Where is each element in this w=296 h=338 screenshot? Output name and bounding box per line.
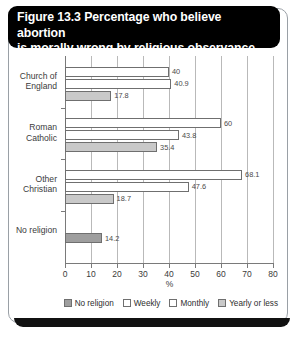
x-axis-tick-label: 10	[78, 269, 104, 279]
x-axis-tick	[195, 264, 196, 268]
bar-value-label: 17.8	[114, 91, 128, 101]
x-axis-tick-label: 0	[52, 269, 78, 279]
legend-swatch	[123, 299, 131, 307]
bar-value-label: 40.9	[174, 79, 188, 89]
bar-value-label: 40	[172, 67, 180, 77]
gridline	[247, 56, 248, 263]
bar	[65, 142, 157, 152]
x-axis-tick-label: 30	[130, 269, 156, 279]
gridline	[221, 56, 222, 263]
bar	[65, 67, 169, 77]
figure-title-bar: Figure 13.3 Percentage who believe abort…	[8, 6, 280, 48]
bar-value-label: 43.8	[182, 131, 196, 141]
bar-value-label: 14.2	[105, 234, 119, 244]
legend-swatch	[64, 299, 72, 307]
y-axis-tick	[61, 159, 66, 160]
bar-value-label: 47.6	[192, 182, 206, 192]
x-axis-tick-label: 40	[156, 269, 182, 279]
bar	[65, 79, 171, 89]
x-axis-tick	[247, 264, 248, 268]
x-axis-tick	[117, 264, 118, 268]
legend-label: No religion	[75, 299, 114, 308]
category-label: Roman Catholic	[0, 122, 61, 143]
y-axis-tick	[61, 211, 66, 212]
gridline	[195, 56, 196, 263]
legend-item: Weekly	[123, 299, 161, 308]
bar	[65, 194, 114, 204]
bar-value-label: 35.4	[160, 143, 174, 153]
x-axis-tick	[91, 264, 92, 268]
category-label: Church of England	[0, 71, 61, 92]
bar	[65, 233, 102, 243]
legend-item: Yearly or less	[218, 299, 278, 308]
x-axis-tick-label: 20	[104, 269, 130, 279]
legend-item: Monthly	[169, 299, 209, 308]
bar-value-label: 60	[224, 119, 232, 129]
x-axis-tick	[143, 264, 144, 268]
bar	[65, 130, 179, 140]
x-axis-tick	[169, 264, 170, 268]
figure-title-line-1: Figure 13.3 Percentage who believe abort…	[17, 10, 271, 41]
legend-swatch	[218, 299, 226, 307]
bar	[65, 182, 189, 192]
chart-legend: No religionWeeklyMonthlyYearly or less	[8, 295, 288, 311]
bar	[65, 118, 221, 128]
x-axis-tick-label: 80	[260, 269, 286, 279]
x-axis-tick-label: 50	[182, 269, 208, 279]
x-axis-tick	[65, 264, 66, 268]
y-axis-tick	[61, 108, 66, 109]
x-axis-tick	[273, 264, 274, 268]
bar-value-label: 68.1	[245, 170, 259, 180]
gridline	[273, 56, 274, 263]
category-label: No religion	[0, 225, 61, 236]
legend-label: Yearly or less	[229, 299, 278, 308]
legend-label: Weekly	[134, 299, 161, 308]
figure-title-line-2: is morally wrong by religious observance	[17, 41, 271, 57]
legend-item: No religion	[64, 299, 114, 308]
card-shadow	[14, 318, 290, 327]
x-axis-tick-label: 60	[208, 269, 234, 279]
x-axis-label: %	[65, 279, 274, 289]
bar-value-label: 18.7	[117, 194, 131, 204]
bar	[65, 170, 242, 180]
x-axis-tick-label: 70	[234, 269, 260, 279]
x-axis-tick	[221, 264, 222, 268]
legend-swatch	[169, 299, 177, 307]
category-label: Other Christian	[0, 174, 61, 195]
bar	[65, 91, 111, 101]
legend-label: Monthly	[180, 299, 209, 308]
